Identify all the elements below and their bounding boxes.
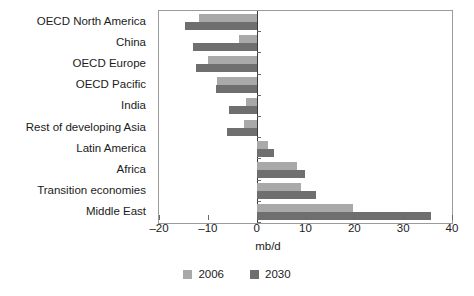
bar-2030-middle-east <box>257 212 431 220</box>
category-tick <box>257 116 261 117</box>
bar-2006-africa <box>257 162 297 170</box>
x-axis-tick-label: 40 <box>446 222 459 234</box>
plot-area <box>158 10 453 224</box>
x-axis-title: mb/d <box>0 240 474 252</box>
bar-2030-transition-economies <box>257 191 317 199</box>
x-axis-tick <box>306 215 307 220</box>
legend-label: 2006 <box>198 268 224 280</box>
y-axis-category-labels: OECD North AmericaChinaOECD EuropeOECD P… <box>0 10 152 224</box>
y-axis-label: OECD North America <box>37 15 146 27</box>
y-axis-label: Middle East <box>86 205 146 217</box>
x-axis-tick-label: 30 <box>397 222 410 234</box>
x-axis-tick-label: –10 <box>198 222 217 234</box>
bars-container <box>159 11 452 223</box>
bar-2030-china <box>193 43 256 51</box>
y-axis-label: OECD Pacific <box>76 78 146 90</box>
bar-2006-latin-america <box>257 141 268 149</box>
chart-legend: 20062030 <box>0 268 474 280</box>
y-axis-label: OECD Europe <box>72 57 146 69</box>
bar-2006-oecd-pacific <box>217 77 257 85</box>
bar-2006-middle-east <box>257 204 354 212</box>
legend-swatch-icon <box>250 270 259 279</box>
category-tick <box>257 31 261 32</box>
x-axis-tick-label: 20 <box>348 222 361 234</box>
bar-2030-oecd-europe <box>196 64 257 72</box>
bar-2006-oecd-europe <box>208 56 257 64</box>
bar-2006-rest-of-developing-asia <box>244 120 256 128</box>
y-axis-label: Africa <box>117 163 146 175</box>
bar-2030-latin-america <box>257 149 275 157</box>
category-tick <box>257 52 261 53</box>
x-axis-tick <box>257 215 258 220</box>
y-axis-label: India <box>121 99 146 111</box>
y-axis-label: Transition economies <box>37 184 146 196</box>
x-axis-tick <box>354 215 355 220</box>
bar-2006-china <box>239 35 257 43</box>
legend-swatch-icon <box>183 270 192 279</box>
x-axis-tick-label: –20 <box>149 222 168 234</box>
bar-2030-rest-of-developing-asia <box>227 128 256 136</box>
x-axis-tick <box>403 215 404 220</box>
category-tick <box>257 180 261 181</box>
bar-2030-india <box>229 106 257 114</box>
bar-2006-transition-economies <box>257 183 301 191</box>
net-oil-trade-bar-chart: OECD North AmericaChinaOECD EuropeOECD P… <box>0 0 474 296</box>
legend-item-2030[interactable]: 2030 <box>250 268 291 280</box>
category-tick <box>257 95 261 96</box>
x-axis-tick <box>452 215 453 220</box>
category-tick <box>257 201 261 202</box>
bar-2006-india <box>246 98 256 106</box>
bar-2030-oecd-pacific <box>216 85 257 93</box>
x-axis-tick <box>208 215 209 220</box>
bar-2030-oecd-north-america <box>185 22 257 30</box>
x-axis-title-text: mb/d <box>255 240 281 252</box>
y-axis-label: China <box>116 36 146 48</box>
x-axis-tick-label: 0 <box>253 222 259 234</box>
category-tick <box>257 158 261 159</box>
legend-label: 2030 <box>265 268 291 280</box>
category-tick <box>257 74 261 75</box>
bar-2006-oecd-north-america <box>199 14 257 22</box>
x-axis-tick-label: 10 <box>299 222 312 234</box>
legend-item-2006[interactable]: 2006 <box>183 268 224 280</box>
bar-2030-africa <box>257 170 306 178</box>
y-axis-label: Latin America <box>76 142 146 154</box>
y-axis-label: Rest of developing Asia <box>26 121 146 133</box>
x-axis-tick <box>159 215 160 220</box>
category-tick <box>257 137 261 138</box>
